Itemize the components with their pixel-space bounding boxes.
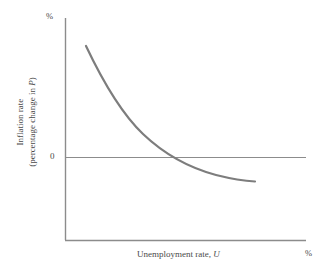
phillips-curve-path	[86, 46, 255, 182]
y-axis-title: Inflation rate (percentage change in P)	[13, 47, 39, 197]
x-axis-title-variable: U	[213, 249, 220, 259]
y-axis-title-line-2-suffix: )	[27, 77, 37, 80]
x-axis-unit-label: %	[305, 249, 312, 258]
y-axis-title-line-1: Inflation rate	[14, 99, 26, 146]
y-axis-unit-label: %	[46, 12, 53, 21]
y-axis-title-variable: P	[27, 80, 37, 86]
phillips-curve-figure: % 0 % Unemployment rate, U Inflation rat…	[0, 0, 331, 276]
x-axis-title: Unemployment rate, U	[137, 250, 220, 259]
y-axis-zero-tick-label: 0	[50, 152, 55, 161]
y-axis-title-line-2: (percentage change in P)	[26, 77, 38, 167]
chart-canvas	[0, 0, 331, 276]
y-axis-title-line-2-prefix: (percentage change in	[27, 88, 37, 167]
x-axis-title-text: Unemployment rate,	[137, 249, 211, 259]
